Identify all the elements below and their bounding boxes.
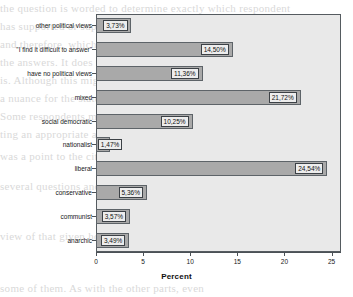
category-label: other political views: [36, 21, 92, 30]
x-tick: [143, 252, 144, 256]
x-tick-label: 0: [94, 257, 98, 266]
bar-value-label: 3,73%: [103, 20, 127, 31]
bar-value-label: 3,57%: [102, 211, 126, 222]
category-label: have no political views: [27, 69, 92, 78]
category-label: liberal: [75, 164, 92, 173]
category-tick-row: communist: [0, 212, 353, 221]
x-tick: [284, 252, 285, 256]
category-tick-row: nationalist: [0, 140, 353, 149]
x-tick: [190, 252, 191, 256]
x-tick: [96, 252, 97, 256]
bar-value-label: 5,36%: [119, 187, 143, 198]
bar: [96, 161, 327, 176]
bar-value-label: 14,50%: [201, 44, 229, 55]
bar-value-label: 3,49%: [101, 235, 125, 246]
category-label: conservative: [56, 188, 93, 197]
category-label: mixed: [75, 93, 92, 102]
category-tick-row: anarchic: [0, 236, 353, 245]
bar-value-label: 24,54%: [295, 163, 323, 174]
bar-chart: other political views"I find it difficul…: [0, 0, 353, 297]
category-tick-row: conservative: [0, 188, 353, 197]
bar-value-label: 10,25%: [161, 116, 189, 127]
x-tick: [332, 252, 333, 256]
category-label: communist: [61, 212, 92, 221]
bar-value-label: 1,47%: [98, 139, 122, 150]
x-tick-label: 25: [328, 257, 335, 266]
x-tick: [237, 252, 238, 256]
x-tick-label: 5: [141, 257, 145, 266]
bar-value-label: 11,36%: [171, 68, 199, 79]
x-tick-label: 15: [234, 257, 241, 266]
x-axis-title: Percent: [0, 272, 353, 281]
x-tick-label: 10: [187, 257, 194, 266]
category-label: anarchic: [67, 236, 92, 245]
category-label: "I find it difficult to answer": [16, 45, 92, 54]
category-label: social democratic: [42, 117, 92, 126]
category-label: nationalist: [63, 140, 92, 149]
category-tick-row: other political views: [0, 21, 353, 30]
x-tick-label: 20: [281, 257, 288, 266]
x-axis-line: [96, 252, 341, 253]
bar-value-label: 21,72%: [269, 92, 297, 103]
